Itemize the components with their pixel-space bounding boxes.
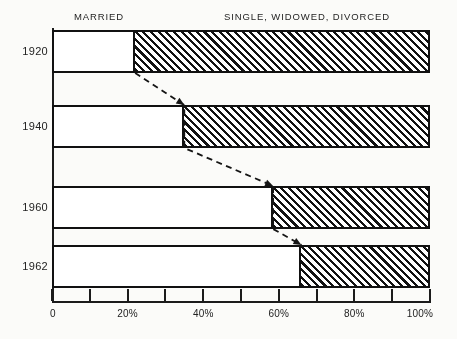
bar-label-1962: 1962 — [4, 260, 48, 272]
dashed-trend-line — [0, 0, 457, 339]
bar-label-1960: 1960 — [4, 201, 48, 213]
chart-figure: MARRIED SINGLE, WIDOWED, DIVORCED 020%40… — [0, 0, 457, 339]
bar-label-1940: 1940 — [4, 120, 48, 132]
plot-area: MARRIED SINGLE, WIDOWED, DIVORCED 020%40… — [0, 0, 457, 339]
bar-label-1920: 1920 — [4, 45, 48, 57]
